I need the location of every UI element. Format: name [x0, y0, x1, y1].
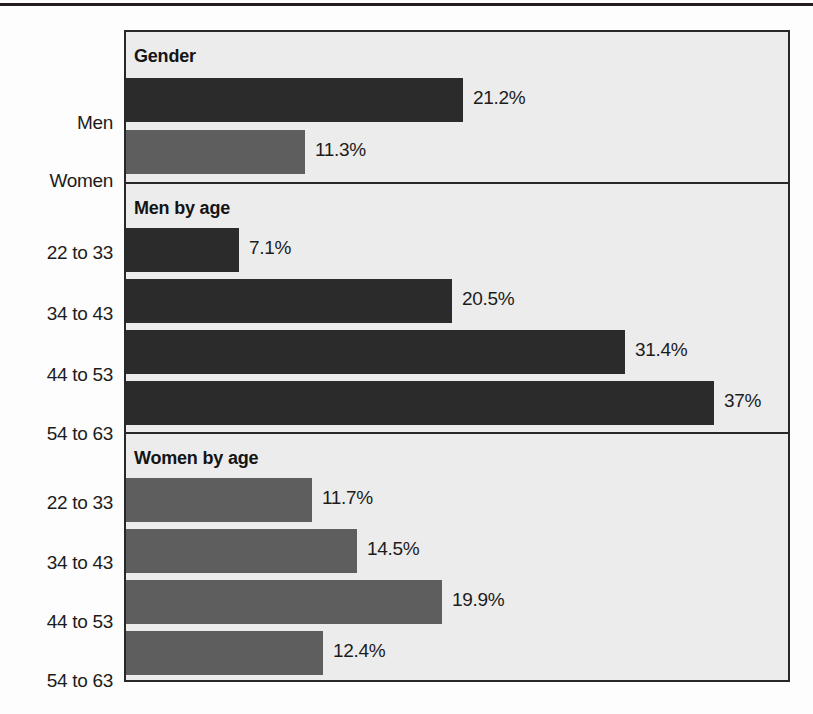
bar-value-men-22-33: 7.1% — [249, 237, 291, 259]
bar-value-women-54-63: 12.4% — [333, 640, 385, 662]
bar-value-men-44-53: 31.4% — [635, 339, 687, 361]
bar-value-men-54-63: 37% — [724, 390, 761, 412]
panel-title-women-by-age: Women by age — [134, 448, 258, 469]
panel-women-by-age: Women by age 11.7% 14.5% 19.9% 12.4% — [126, 432, 788, 680]
row-label-men-54-63: 54 to 63 — [0, 423, 113, 445]
chart-frame: Gender 21.2% 11.3% Men by age 7.1% 20.5%… — [124, 30, 790, 682]
bar-value-women-44-53: 19.9% — [452, 589, 504, 611]
row-label-men: Men — [0, 112, 113, 134]
panel-title-men-by-age: Men by age — [134, 198, 230, 219]
bar-value-men-34-43: 20.5% — [462, 288, 514, 310]
bar-women-22-33 — [126, 478, 312, 522]
row-label-women: Women — [0, 170, 113, 192]
bar-value-gender-men: 21.2% — [473, 87, 525, 109]
row-label-women-34-43: 34 to 43 — [0, 552, 113, 574]
bar-women-34-43 — [126, 529, 357, 573]
panel-gender: Gender 21.2% 11.3% — [126, 32, 788, 182]
bar-men-44-53 — [126, 330, 625, 374]
panel-men-by-age: Men by age 7.1% 20.5% 31.4% 37% — [126, 182, 788, 432]
row-label-men-34-43: 34 to 43 — [0, 303, 113, 325]
bar-women-54-63 — [126, 631, 323, 675]
top-divider-rule — [0, 3, 813, 6]
row-label-women-22-33: 22 to 33 — [0, 492, 113, 514]
bar-value-women-22-33: 11.7% — [322, 487, 373, 509]
bar-men-54-63 — [126, 381, 714, 425]
row-label-women-44-53: 44 to 53 — [0, 611, 113, 633]
row-label-men-44-53: 44 to 53 — [0, 364, 113, 386]
category-label-column: Men Women 22 to 33 34 to 43 44 to 53 54 … — [0, 30, 113, 682]
bar-men-34-43 — [126, 279, 452, 323]
bar-value-women-34-43: 14.5% — [367, 538, 419, 560]
bar-gender-women — [126, 130, 305, 174]
row-label-women-54-63: 54 to 63 — [0, 670, 113, 692]
panel-title-gender: Gender — [134, 46, 196, 67]
bar-gender-men — [126, 78, 463, 122]
bar-men-22-33 — [126, 228, 239, 272]
bar-value-gender-women: 11.3% — [315, 139, 366, 161]
bar-women-44-53 — [126, 580, 442, 624]
row-label-men-22-33: 22 to 33 — [0, 242, 113, 264]
chart-page: Men Women 22 to 33 34 to 43 44 to 53 54 … — [0, 0, 813, 714]
